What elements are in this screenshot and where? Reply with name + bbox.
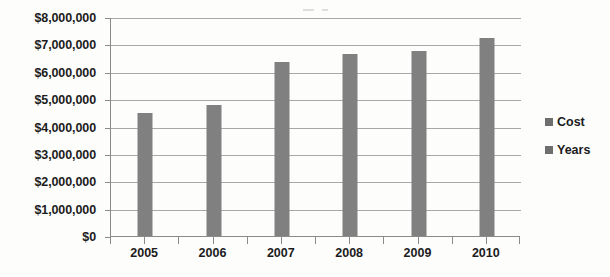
- x-tick-mark: [519, 237, 520, 244]
- bar-2009: [411, 51, 426, 236]
- y-tick-label: $0: [82, 230, 96, 244]
- x-tick-mark: [178, 237, 179, 244]
- scan-artifact: [322, 9, 328, 11]
- y-tick-label: $3,000,000: [34, 148, 96, 162]
- x-tick-mark: [144, 237, 145, 244]
- y-tick-label: $8,000,000: [34, 11, 96, 25]
- legend-swatch-icon: [545, 146, 553, 154]
- x-tick-label-2010: 2010: [472, 246, 500, 260]
- y-tick-label: $4,000,000: [34, 121, 96, 135]
- y-tick-label: $2,000,000: [34, 175, 96, 189]
- x-axis: 200520062007200820092010: [110, 246, 520, 268]
- x-tick-mark: [247, 237, 248, 244]
- x-tick-label-2007: 2007: [267, 246, 295, 260]
- x-tick-mark: [315, 237, 316, 244]
- plot-area: [110, 18, 520, 237]
- bars-layer: [111, 18, 520, 236]
- x-tick-mark: [349, 237, 350, 244]
- legend-label: Cost: [557, 115, 585, 129]
- x-tick-mark: [486, 237, 487, 244]
- x-tick-label-2005: 2005: [130, 246, 158, 260]
- legend-entry-years[interactable]: Years: [545, 143, 607, 157]
- x-tick-mark: [281, 237, 282, 244]
- x-tick-mark: [452, 237, 453, 244]
- x-tick-label-2006: 2006: [199, 246, 227, 260]
- y-tick-label: $6,000,000: [34, 66, 96, 80]
- bar-2007: [274, 62, 289, 236]
- x-tick-label-2008: 2008: [335, 246, 363, 260]
- bar-2010: [479, 38, 494, 236]
- x-tick-label-2009: 2009: [404, 246, 432, 260]
- legend-entry-cost[interactable]: Cost: [545, 115, 607, 129]
- legend-label: Years: [557, 143, 590, 157]
- bar-2005: [138, 113, 153, 236]
- y-tick-label: $5,000,000: [34, 93, 96, 107]
- chart-legend: CostYears: [545, 115, 607, 171]
- x-tick-mark: [383, 237, 384, 244]
- bar-2008: [343, 54, 358, 236]
- y-tick-label: $7,000,000: [34, 38, 96, 52]
- x-axis-ticks: [110, 237, 520, 244]
- bar-2006: [206, 105, 221, 236]
- legend-swatch-icon: [545, 118, 553, 126]
- y-tick-label: $1,000,000: [34, 203, 96, 217]
- x-tick-mark: [213, 237, 214, 244]
- y-axis: $0$1,000,000$2,000,000$3,000,000$4,000,0…: [0, 0, 104, 277]
- scan-artifact: [303, 9, 314, 11]
- x-tick-mark: [418, 237, 419, 244]
- x-tick-mark: [110, 237, 111, 244]
- chart-canvas: $0$1,000,000$2,000,000$3,000,000$4,000,0…: [0, 0, 610, 277]
